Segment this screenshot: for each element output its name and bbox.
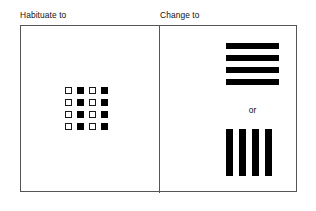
stimulus-figure: Habituate to Change to or [0,0,316,211]
horizontal-stripes-group [226,43,279,85]
checker-cell-filled-r1c2 [77,87,84,94]
figure-frame: or [20,25,297,192]
habituate-panel [21,26,159,193]
checker-cell-filled-r2c4 [101,99,108,106]
checker-cell-open-r2c1 [65,99,72,106]
vertical-stripe-3 [252,129,259,176]
checker-cell-filled-r3c4 [101,111,108,118]
checker-cell-open-r3c1 [65,111,72,118]
habituate-column-caption: Habituate to [20,10,66,20]
checker-cell-open-r1c3 [89,87,96,94]
checker-cell-filled-r3c2 [77,111,84,118]
vertical-stripe-4 [265,129,272,176]
checker-cell-filled-r4c4 [101,123,108,130]
checker-cell-filled-r1c4 [101,87,108,94]
checker-cell-open-r2c3 [89,99,96,106]
checker-cell-filled-r2c2 [77,99,84,106]
horizontal-stripe-1 [226,43,279,49]
checker-cell-open-r4c1 [65,123,72,130]
checker-cell-filled-r4c2 [77,123,84,130]
checker-cell-open-r4c3 [89,123,96,130]
horizontal-stripe-3 [226,67,279,73]
vertical-stripe-1 [226,129,233,176]
change-column-caption: Change to [160,10,200,20]
change-panel: or [160,26,298,193]
checkerboard-grid [65,87,108,130]
horizontal-stripe-4 [226,79,279,85]
vertical-stripes-group [226,129,272,176]
checker-cell-open-r3c3 [89,111,96,118]
horizontal-stripe-2 [226,55,279,61]
vertical-stripe-2 [239,129,246,176]
checker-cell-open-r1c1 [65,87,72,94]
or-connector-label: or [226,105,279,115]
